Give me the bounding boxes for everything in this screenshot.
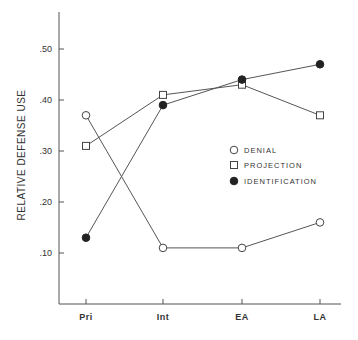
data-point-denial xyxy=(82,112,90,120)
x-ticks: PriIntEALA xyxy=(79,299,326,322)
data-point-identification xyxy=(316,61,324,69)
x-tick-label: Pri xyxy=(79,312,93,322)
series-line-identification xyxy=(86,64,320,237)
y-tick-label: .10 xyxy=(39,248,52,258)
data-point-identification xyxy=(238,76,246,84)
series-line-projection xyxy=(86,85,320,146)
x-tick-label: LA xyxy=(314,312,327,322)
legend-marker-denial xyxy=(230,146,238,154)
y-tick-label: .20 xyxy=(39,197,52,207)
line-chart: .10.20.30.40.50 PriIntEALA RELATIVE DEFE… xyxy=(0,0,358,340)
legend-label-denial: DENIAL xyxy=(244,146,277,155)
x-tick-label: Int xyxy=(157,312,170,322)
data-point-projection xyxy=(83,142,90,149)
y-ticks: .10.20.30.40.50 xyxy=(39,44,64,258)
series-lines xyxy=(86,64,320,248)
legend-marker-projection xyxy=(231,162,238,169)
data-point-denial xyxy=(238,244,246,252)
legend-marker-identification xyxy=(230,177,238,185)
y-tick-label: .50 xyxy=(39,44,52,54)
legend-label-identification: IDENTIFICATION xyxy=(244,177,317,186)
data-point-denial xyxy=(159,244,167,252)
data-point-projection xyxy=(317,112,324,119)
y-axis-title: RELATIVE DEFENSE USE xyxy=(16,90,27,221)
data-point-identification xyxy=(82,234,90,242)
data-point-identification xyxy=(159,101,167,109)
data-point-denial xyxy=(316,219,324,227)
y-tick-label: .30 xyxy=(39,146,52,156)
x-tick-label: EA xyxy=(235,312,249,322)
y-tick-label: .40 xyxy=(39,95,52,105)
legend-label-projection: PROJECTION xyxy=(244,161,302,170)
data-point-projection xyxy=(160,91,167,98)
legend: DENIALPROJECTIONIDENTIFICATION xyxy=(230,146,317,186)
axes xyxy=(59,12,341,304)
series-markers xyxy=(82,61,324,252)
